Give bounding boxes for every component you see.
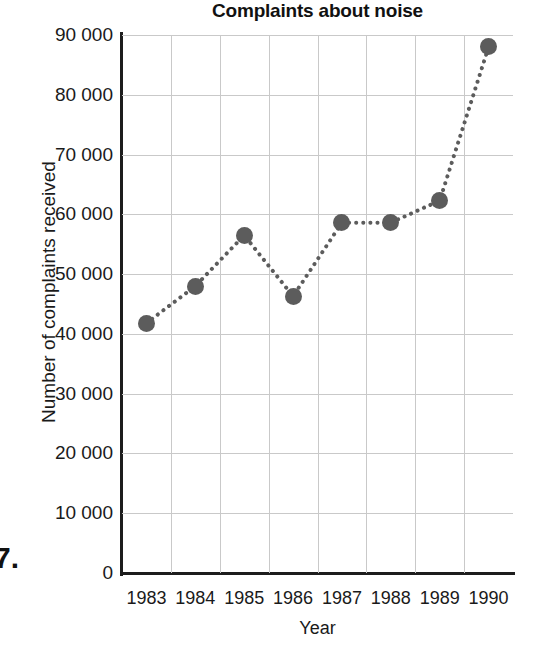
chart-title: Complaints about noise (122, 0, 513, 22)
y-axis-tick-label: 40 000 (55, 324, 113, 343)
gridline-vertical (415, 35, 416, 573)
y-axis-tick-label: 90 000 (55, 25, 113, 44)
x-axis-tick-label: 1990 (461, 589, 517, 607)
gridline-vertical (269, 35, 270, 573)
y-axis-tick-label: 70 000 (55, 145, 113, 164)
x-axis-tick-label: 1988 (363, 589, 419, 607)
gridline-vertical (220, 35, 221, 573)
y-axis-tick-label: 20 000 (55, 443, 113, 462)
y-axis-tick-label: 10 000 (55, 503, 113, 522)
gridline-vertical (464, 35, 465, 573)
x-axis-tick-label: 1984 (167, 589, 223, 607)
y-axis-line (120, 32, 123, 576)
x-axis-tick-label: 1986 (265, 589, 321, 607)
y-axis-tick-label: 80 000 (55, 85, 113, 104)
gridline-vertical (318, 35, 319, 573)
x-axis-title: Year (122, 618, 513, 639)
data-point-marker (285, 288, 302, 305)
y-axis-tick-label: 60 000 (55, 204, 113, 223)
x-axis-tick-label: 1989 (412, 589, 468, 607)
gridline-vertical (366, 35, 367, 573)
y-axis-tick-label: 30 000 (55, 384, 113, 403)
x-axis-tick-label: 1985 (216, 589, 272, 607)
question-number: 7. (0, 543, 19, 573)
y-axis-tick-label: 50 000 (55, 264, 113, 283)
data-point-marker (187, 278, 204, 295)
x-axis-tick-label: 1987 (314, 589, 370, 607)
x-axis-tick-label: 1983 (118, 589, 174, 607)
data-point-marker (236, 227, 253, 244)
gridline-vertical (171, 35, 172, 573)
data-point-marker (138, 315, 155, 332)
y-axis-tick-label: 0 (102, 563, 113, 582)
